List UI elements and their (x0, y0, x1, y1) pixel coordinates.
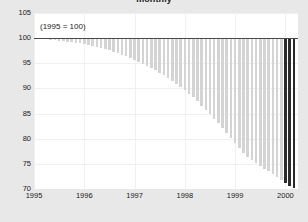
bar (179, 38, 182, 87)
x-axis-tick-label: 2000 (265, 192, 305, 200)
bar (230, 38, 233, 138)
bar (137, 38, 140, 62)
y-axis-tick-label: 95 (1, 59, 31, 67)
bar (288, 38, 291, 186)
bar (293, 38, 296, 188)
bar (242, 38, 245, 153)
bar (108, 38, 111, 50)
bar (251, 38, 254, 160)
bar (91, 38, 94, 46)
bar (121, 38, 124, 55)
bar (188, 38, 191, 94)
x-axis-tick-label: 1995 (14, 192, 54, 200)
bar (276, 38, 279, 177)
bar (272, 38, 275, 174)
index-base-annotation: (1995 = 100) (40, 22, 86, 31)
y-axis-tick-label: 75 (1, 160, 31, 168)
bar (184, 38, 187, 90)
y-axis-tick-label: 85 (1, 110, 31, 118)
bar (167, 38, 170, 78)
bar (142, 38, 145, 64)
bar (150, 38, 153, 68)
x-axis-tick-label: 1997 (115, 192, 155, 200)
bar (163, 38, 166, 75)
x-axis: 199519961997199819992000 (34, 192, 298, 204)
baseline-100 (34, 38, 298, 39)
bar (221, 38, 224, 128)
bar (104, 38, 107, 49)
bar (267, 38, 270, 171)
y-axis: 105100959085807570 (0, 13, 31, 189)
bar (112, 38, 115, 52)
x-axis-tick-label: 1998 (165, 192, 205, 200)
y-axis-tick-label: 105 (1, 9, 31, 17)
y-axis-tick-label: 80 (1, 135, 31, 143)
bar (100, 38, 103, 48)
bar (129, 38, 132, 58)
bar (200, 38, 203, 105)
bar (284, 38, 287, 183)
bar (280, 38, 283, 180)
bar (117, 38, 120, 53)
bar (158, 38, 161, 73)
bar (246, 38, 249, 157)
bar (96, 38, 99, 47)
bar (225, 38, 228, 133)
bar (217, 38, 220, 123)
bar (263, 38, 266, 169)
bar (175, 38, 178, 84)
bar (196, 38, 199, 101)
bar (238, 38, 241, 148)
chart-title: monthly (0, 0, 308, 4)
bar (259, 38, 262, 166)
gridline-horizontal (34, 13, 298, 14)
y-axis-tick-label: 90 (1, 84, 31, 92)
y-axis-tick-label: 100 (1, 34, 31, 42)
plot-area: (1995 = 100) (34, 13, 298, 189)
bar (192, 38, 195, 97)
bar (133, 38, 136, 60)
x-axis-tick-label: 1996 (64, 192, 104, 200)
monthly-index-bar-chart: monthly 105100959085807570 (1995 = 100) … (0, 0, 308, 222)
bar (209, 38, 212, 114)
bar (255, 38, 258, 163)
bar (154, 38, 157, 70)
bar (234, 38, 237, 143)
bar (125, 38, 128, 56)
bar (213, 38, 216, 118)
bar (205, 38, 208, 109)
x-axis-tick-label: 1999 (215, 192, 255, 200)
gridline-vertical (34, 13, 35, 189)
bar (146, 38, 149, 66)
bar (171, 38, 174, 81)
